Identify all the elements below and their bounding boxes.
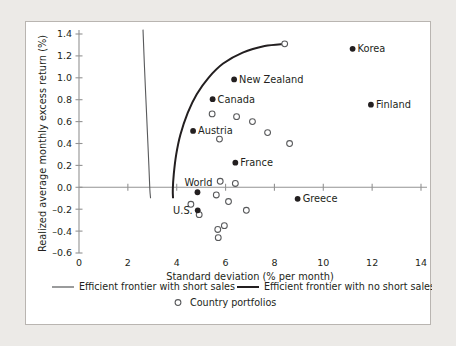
country-portfolio-point — [250, 119, 256, 125]
country-portfolio-point — [217, 178, 223, 184]
legend-label-short-sales: Efficient frontier with short sales — [79, 281, 235, 292]
x-tick-label: 14 — [415, 257, 427, 268]
y-tick-label: –0.4 — [52, 226, 72, 237]
y-tick-label: –0.6 — [52, 247, 72, 258]
y-tick-label: 1.0 — [57, 72, 72, 83]
country-point-france — [232, 160, 238, 166]
country-portfolio-point — [243, 207, 249, 213]
y-tick-label: 0.4 — [57, 138, 72, 149]
y-tick-label: 1.4 — [57, 28, 72, 39]
scatter-plot: 1.41.21.00.80.60.40.20.0–0.2–0.4–0.60246… — [26, 22, 432, 326]
country-portfolio-point — [282, 41, 288, 47]
country-point-greece — [295, 196, 301, 202]
country-label-canada: Canada — [218, 94, 255, 105]
country-portfolio-point — [213, 192, 219, 198]
country-portfolio-point — [232, 181, 238, 187]
country-label-world: World — [184, 177, 212, 188]
country-point-u-s — [195, 207, 201, 213]
x-tick-label: 0 — [76, 257, 82, 268]
frontier-curve-1 — [143, 30, 151, 199]
country-label-france: France — [240, 157, 273, 168]
country-point-austria — [190, 128, 196, 134]
country-label-korea: Korea — [358, 43, 386, 54]
country-point-new-zealand — [231, 77, 237, 83]
x-tick-label: 2 — [125, 257, 131, 268]
country-portfolio-point — [226, 199, 232, 205]
country-label-finland: Finland — [376, 99, 411, 110]
country-label-u-s: U.S. — [173, 205, 193, 216]
y-tick-label: 0.8 — [57, 94, 72, 105]
country-portfolio-point — [265, 130, 271, 136]
country-point-finland — [368, 102, 374, 108]
y-axis-title: Realized average monthly excess return (… — [37, 35, 48, 252]
y-tick-label: –0.2 — [52, 204, 72, 215]
country-portfolio-point — [209, 111, 215, 117]
x-tick-label: 10 — [317, 257, 329, 268]
x-tick-label: 12 — [366, 257, 378, 268]
country-point-world — [195, 189, 201, 195]
y-tick-label: 0.2 — [57, 160, 72, 171]
country-portfolio-point — [234, 114, 240, 120]
country-portfolio-point — [221, 223, 227, 229]
country-label-greece: Greece — [303, 193, 338, 204]
frontier-curve-2 — [173, 44, 285, 198]
country-portfolio-point — [287, 141, 293, 147]
country-portfolio-point — [217, 136, 223, 142]
country-point-canada — [210, 96, 216, 102]
legend-label-no-short-sales: Efficient frontier with no short sales — [264, 281, 432, 292]
y-tick-label: 0.6 — [57, 116, 72, 127]
legend-label-country-portfolios: Country portfolios — [190, 297, 276, 308]
x-tick-label: 6 — [223, 257, 229, 268]
country-point-korea — [350, 46, 356, 52]
y-tick-label: 1.2 — [57, 50, 72, 61]
legend-marker-country-portfolios — [175, 300, 181, 306]
country-label-new-zealand: New Zealand — [239, 74, 303, 85]
x-tick-label: 8 — [271, 257, 277, 268]
country-portfolio-point — [215, 235, 221, 241]
country-portfolio-point — [215, 227, 221, 233]
y-tick-label: 0.0 — [57, 182, 72, 193]
country-label-austria: Austria — [198, 125, 233, 136]
figure-panel: 1.41.21.00.80.60.40.20.0–0.2–0.4–0.60246… — [25, 21, 431, 325]
x-tick-label: 4 — [174, 257, 180, 268]
